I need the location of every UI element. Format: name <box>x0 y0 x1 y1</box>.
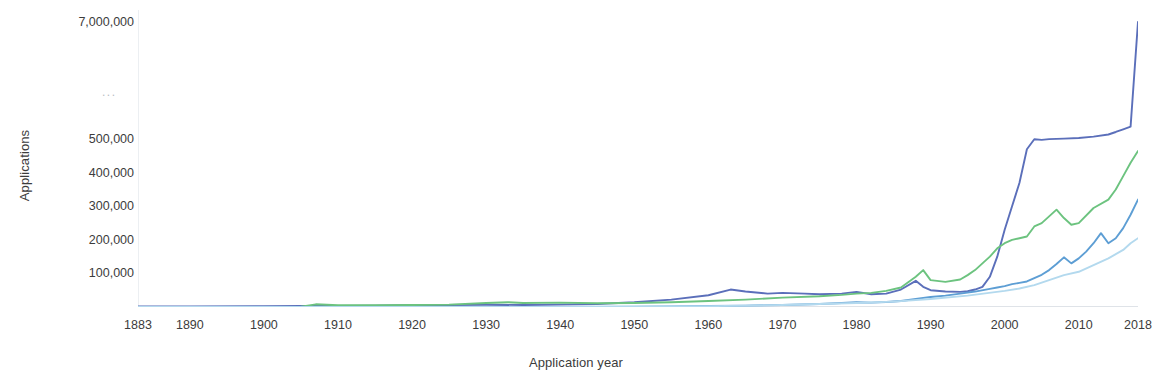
x-tick-label: 1940 <box>546 318 574 332</box>
plot-lines <box>138 10 1138 307</box>
line-series-medium-blue <box>138 200 1138 307</box>
x-tick-label: 2018 <box>1124 318 1152 332</box>
y-axis-tick-labels: 100,000200,000300,000400,000500,0007,000… <box>10 0 134 310</box>
x-tick-label: 1960 <box>694 318 722 332</box>
x-tick-label: 1980 <box>843 318 871 332</box>
x-tick-label: 1990 <box>917 318 945 332</box>
y-tick-label: 300,000 <box>14 199 134 213</box>
x-tick-label: 1890 <box>176 318 204 332</box>
x-tick-label: 1883 <box>124 318 152 332</box>
x-tick-label: 1930 <box>472 318 500 332</box>
x-axis-title: Application year <box>0 355 1152 370</box>
line-series-light-blue <box>138 238 1138 307</box>
line-series-navy <box>138 22 1138 307</box>
y-tick-label: 7,000,000 <box>14 15 134 29</box>
x-tick-label: 2000 <box>991 318 1019 332</box>
y-axis-break-ellipsis: ... <box>102 85 117 99</box>
x-tick-label: 2010 <box>1065 318 1093 332</box>
x-tick-label: 1900 <box>250 318 278 332</box>
y-tick-label: 100,000 <box>14 266 134 280</box>
y-tick-label: 500,000 <box>14 132 134 146</box>
line-series-green <box>138 151 1138 307</box>
y-tick-label: 200,000 <box>14 233 134 247</box>
x-tick-label: 1950 <box>620 318 648 332</box>
x-tick-label: 1910 <box>324 318 352 332</box>
y-tick-label: 400,000 <box>14 166 134 180</box>
applications-line-chart: Applications 100,000200,000300,000400,00… <box>0 0 1152 378</box>
x-tick-label: 1920 <box>398 318 426 332</box>
x-tick-label: 1970 <box>769 318 797 332</box>
